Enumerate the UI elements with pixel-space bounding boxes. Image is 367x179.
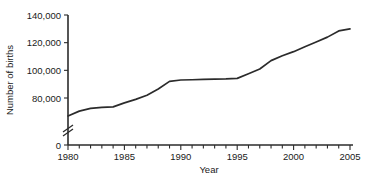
births-line-chart: 080,000100,000120,000140,000 19801985199… xyxy=(0,0,367,179)
x-axis-title: Year xyxy=(199,164,218,175)
x-tick-label-2005: 2005 xyxy=(339,151,360,162)
y-tick-label-0: 0 xyxy=(56,140,61,151)
x-tick-label-1990: 1990 xyxy=(170,151,191,162)
x-axis-tick-labels: 198019851990199520002005 xyxy=(57,151,360,162)
births-series-line xyxy=(68,29,350,116)
y-axis-tick-labels: 080,000100,000120,000140,000 xyxy=(27,10,61,151)
chart-canvas: 080,000100,000120,000140,000 19801985199… xyxy=(0,0,367,179)
y-tick-label-80000: 80,000 xyxy=(32,93,61,104)
x-tick-label-1985: 1985 xyxy=(114,151,135,162)
y-tick-label-100000: 100,000 xyxy=(27,65,61,76)
y-tick-label-120000: 120,000 xyxy=(27,37,61,48)
x-tick-label-1980: 1980 xyxy=(57,151,78,162)
x-tick-label-2000: 2000 xyxy=(283,151,304,162)
y-tick-label-140000: 140,000 xyxy=(27,10,61,21)
y-axis-title: Number of births xyxy=(4,45,15,115)
x-tick-label-1995: 1995 xyxy=(227,151,248,162)
